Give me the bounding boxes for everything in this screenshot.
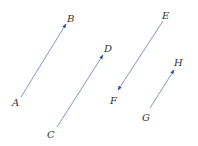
- vector-ef-arrow: [118, 21, 163, 90]
- vector-ab: A B: [11, 13, 74, 108]
- point-label-g: G: [142, 112, 150, 123]
- vector-ab-arrow: [21, 24, 66, 97]
- point-label-e: E: [161, 10, 170, 21]
- point-label-h: H: [173, 57, 183, 68]
- vector-gh-arrow: [150, 70, 174, 108]
- vector-gh: G H: [142, 57, 183, 123]
- vector-cd: C D: [47, 43, 112, 140]
- point-label-f: F: [109, 95, 118, 106]
- point-label-b: B: [66, 13, 74, 24]
- vector-cd-arrow: [57, 55, 103, 127]
- point-label-d: D: [103, 43, 112, 54]
- vector-diagram: A B C D E F G H: [0, 0, 198, 146]
- point-label-c: C: [47, 129, 55, 140]
- point-label-a: A: [11, 97, 19, 108]
